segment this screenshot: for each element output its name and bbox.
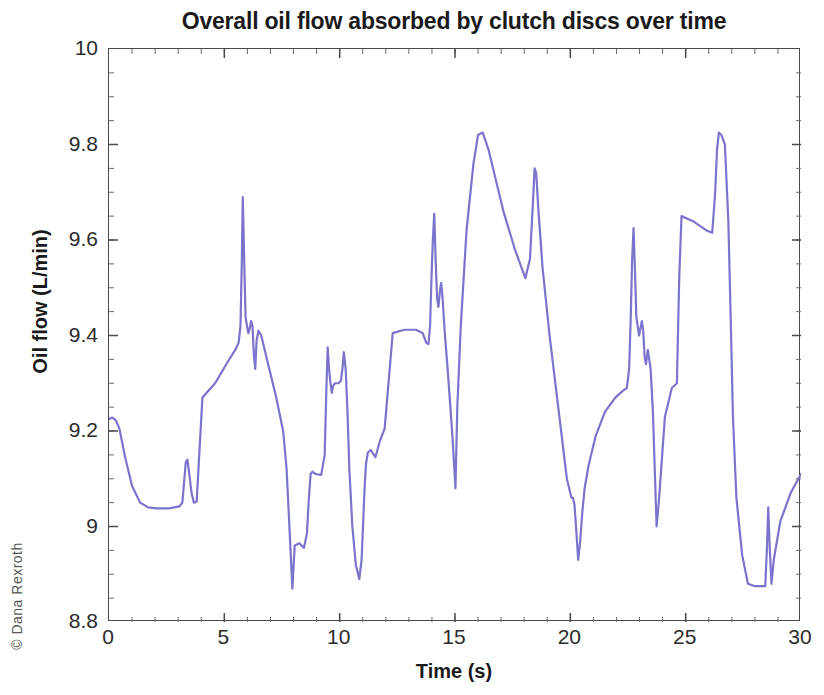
- y-tick-label: 8.8: [22, 609, 108, 633]
- x-tick-label: 5: [217, 625, 229, 649]
- y-tick-label: 10: [22, 36, 108, 60]
- chart-title: Overall oil flow absorbed by clutch disc…: [108, 8, 800, 35]
- line-chart-svg: [109, 49, 801, 622]
- chart-figure: Overall oil flow absorbed by clutch disc…: [0, 0, 824, 695]
- y-tick-label: 9.4: [22, 323, 108, 347]
- y-tick-label: 9.2: [22, 418, 108, 442]
- x-tick-label: 0: [102, 625, 114, 649]
- y-tick-label: 9.8: [22, 132, 108, 156]
- x-axis-label: Time (s): [108, 660, 800, 683]
- plot-area: [108, 48, 800, 621]
- minor-tick-marks: [109, 49, 801, 622]
- x-tick-label: 25: [673, 625, 696, 649]
- x-tick-label: 20: [558, 625, 581, 649]
- major-tick-marks: [109, 49, 801, 622]
- x-tick-label: 15: [442, 625, 465, 649]
- data-series-line: [109, 133, 801, 589]
- copyright-watermark: © Dana Rexroth: [9, 531, 25, 661]
- x-axis-tick-labels: 051015202530: [108, 625, 800, 657]
- x-tick-label: 10: [327, 625, 350, 649]
- y-tick-label: 9: [22, 514, 108, 538]
- y-tick-label: 9.6: [22, 227, 108, 251]
- x-tick-label: 30: [788, 625, 811, 649]
